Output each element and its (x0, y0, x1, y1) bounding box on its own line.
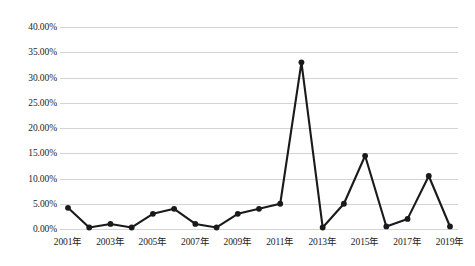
x-tick-label: 2001年 (54, 234, 83, 248)
x-tick-label: 2011年 (266, 234, 294, 248)
x-tick-label: 2015年 (351, 234, 380, 248)
x-axis: 2001年2003年2005年2007年2009年2011年2013年2015年… (0, 0, 475, 266)
x-tick-label: 2003年 (96, 234, 125, 248)
x-tick-label: 2013年 (308, 234, 337, 248)
x-tick-label: 2009年 (224, 234, 253, 248)
line-chart: 0.00%5.00%10.00%15.00%20.00%25.00%30.00%… (0, 0, 475, 266)
x-tick-label: 2005年 (139, 234, 168, 248)
x-tick-label: 2019年 (436, 234, 465, 248)
x-tick-label: 2007年 (181, 234, 210, 248)
x-tick-label: 2017年 (393, 234, 422, 248)
